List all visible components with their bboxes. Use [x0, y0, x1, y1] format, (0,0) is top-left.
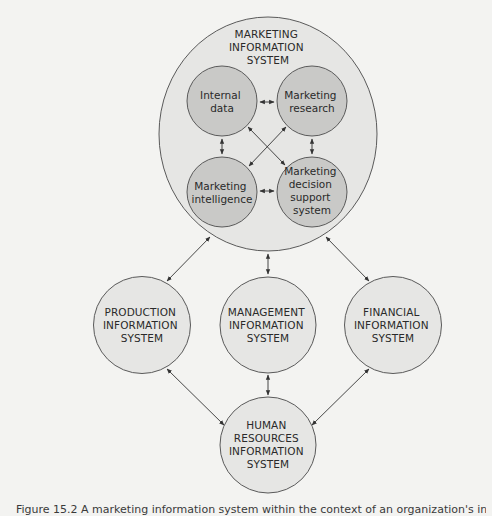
marketing-intelligence-node: [187, 157, 257, 227]
arrow-mis-financial: [326, 237, 369, 281]
arrow-mis-production: [167, 237, 210, 281]
marketing-research-label: Marketing research: [284, 89, 340, 114]
arrow-financial-hr: [312, 369, 369, 425]
arrow-production-hr: [167, 369, 224, 425]
marketing-research-node: [277, 66, 347, 136]
internal-data-node: [187, 66, 257, 136]
marketing-intelligence-label: Marketing intelligence: [192, 180, 253, 205]
figure-caption: Figure 15.2 A marketing information syst…: [16, 503, 486, 516]
